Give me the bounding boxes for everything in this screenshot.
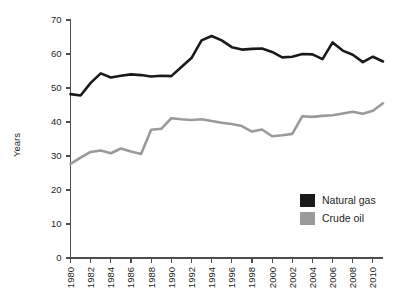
x-tick-label: 1988: [146, 267, 157, 288]
chart-legend: Natural gasCrude oil: [300, 193, 376, 226]
x-tick-label: 2000: [267, 267, 278, 288]
x-tick-label: 2002: [287, 267, 298, 288]
y-tick-label: 70: [51, 14, 62, 25]
x-tick-label: 1998: [246, 267, 257, 288]
y-axis-title: Years: [11, 133, 22, 157]
x-tick-label: 1984: [105, 267, 116, 288]
y-tick-label: 0: [56, 252, 61, 263]
x-tick-label: 2006: [327, 267, 338, 288]
x-tick-label: 1992: [186, 267, 197, 288]
y-tick-label: 60: [51, 48, 62, 59]
x-tick-label: 2008: [347, 267, 358, 288]
x-tick-label: 1980: [65, 267, 76, 288]
x-tick-label: 1996: [226, 267, 237, 288]
series-line-natural-gas: [71, 36, 384, 96]
series-line-crude-oil: [71, 103, 384, 164]
x-tick-label: 1982: [85, 267, 96, 288]
legend-item: Crude oil: [300, 211, 376, 226]
legend-swatch: [300, 212, 315, 225]
y-tick-label: 10: [51, 218, 62, 229]
legend-label: Crude oil: [322, 212, 364, 225]
x-axis: 1980198219841986198819901992199419961998…: [65, 258, 383, 288]
y-tick-label: 20: [51, 184, 62, 195]
y-axis: 010203040506070: [51, 14, 71, 263]
legend-label: Natural gas: [322, 194, 376, 207]
legend-swatch: [300, 194, 315, 207]
legend-item: Natural gas: [300, 193, 376, 208]
y-tick-label: 30: [51, 150, 62, 161]
line-chart: 010203040506070 198019821984198619881990…: [0, 0, 413, 308]
data-series-group: [71, 36, 384, 164]
chart-plot-area: 010203040506070 198019821984198619881990…: [0, 0, 413, 308]
x-tick-label: 1990: [166, 267, 177, 288]
x-tick-label: 2010: [367, 267, 378, 288]
y-tick-label: 40: [51, 116, 62, 127]
x-tick-label: 1986: [125, 267, 136, 288]
y-tick-label: 50: [51, 82, 62, 93]
x-tick-label: 2004: [307, 267, 318, 288]
x-tick-label: 1994: [206, 267, 217, 288]
